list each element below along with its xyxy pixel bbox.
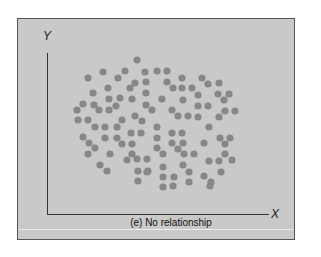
scatter-point <box>148 106 155 113</box>
scatter-point <box>89 89 96 96</box>
scatter-point <box>104 84 111 91</box>
scatter-point <box>220 96 227 103</box>
scatter-point <box>216 134 223 141</box>
scatter-point <box>134 177 141 184</box>
scatter-point <box>168 129 175 136</box>
scatter-point <box>194 102 201 109</box>
scatter-point <box>215 157 222 164</box>
scatter-point <box>185 178 192 185</box>
scatter-point <box>116 94 123 101</box>
scatter-point <box>91 144 98 151</box>
scatter-point <box>198 74 205 81</box>
scatter-point <box>178 129 185 136</box>
scatter-point <box>217 168 224 175</box>
scatter-point <box>142 89 149 96</box>
scatter-point <box>159 163 166 170</box>
scatter-point <box>118 116 125 123</box>
scatter-point <box>74 116 81 123</box>
scatter-point <box>185 168 192 175</box>
y-axis-line <box>47 53 48 215</box>
scatter-point <box>84 74 91 81</box>
scatter-point <box>113 134 120 141</box>
scatter-point <box>225 90 232 97</box>
scatter-point <box>221 150 228 157</box>
scatter-point <box>206 182 213 189</box>
scatter-point <box>134 167 141 174</box>
scatter-point <box>194 113 201 120</box>
scatter-point <box>163 67 170 74</box>
scatter-point <box>153 144 160 151</box>
scatter-point <box>101 123 108 130</box>
scatter-point <box>180 150 187 157</box>
scatter-point <box>204 102 211 109</box>
scatter-point <box>143 155 150 162</box>
scatter-point <box>200 172 207 179</box>
scatter-point <box>190 150 197 157</box>
scatter-point <box>168 106 175 113</box>
scatter-point <box>128 140 135 147</box>
scatter-point <box>204 80 211 87</box>
scatter-point <box>105 95 112 102</box>
figure-panel: Y X (e) No relationship <box>17 18 295 240</box>
scatter-point <box>106 150 113 157</box>
scatter-point <box>95 106 102 113</box>
scatter-point <box>143 168 150 175</box>
scatter-point <box>141 68 148 75</box>
scatter-point <box>142 78 149 85</box>
scatter-point <box>205 123 212 130</box>
scatter-point <box>73 106 80 113</box>
scatter-point <box>128 95 135 102</box>
scatter-point <box>178 74 185 81</box>
scatter-point <box>228 156 235 163</box>
scatter-point <box>169 182 176 189</box>
scatter-point <box>159 150 166 157</box>
scatter-point <box>194 91 201 98</box>
scatter-point <box>118 140 125 147</box>
scatter-point <box>133 155 140 162</box>
scatter-point <box>112 102 119 109</box>
scatter-point <box>215 79 222 86</box>
scatter-point <box>85 139 92 146</box>
scatter-point <box>142 101 149 108</box>
scatter-point <box>159 183 166 190</box>
scatter-point <box>153 134 160 141</box>
scatter-point <box>200 139 207 146</box>
scatter-point <box>174 145 181 152</box>
scatter-point <box>84 116 91 123</box>
figure-caption: (e) No relationship <box>18 217 294 228</box>
scatter-point <box>158 95 165 102</box>
scatter-point <box>168 139 175 146</box>
scatter-point <box>221 107 228 114</box>
scatter-point <box>101 134 108 141</box>
scatter-point <box>231 107 238 114</box>
scatter-point <box>126 84 133 91</box>
scatter-point <box>137 129 144 136</box>
scatter-point <box>163 78 170 85</box>
scatter-point <box>221 140 228 147</box>
scatter-point <box>123 156 130 163</box>
scatter-point <box>215 113 222 120</box>
scatter-point <box>127 129 134 136</box>
scatter-point <box>169 84 176 91</box>
scatter-point <box>114 74 121 81</box>
scatter-point <box>226 134 233 141</box>
scatter-point <box>205 157 212 164</box>
scatter-point <box>84 150 91 157</box>
scatter-point <box>153 67 160 74</box>
scatter-point <box>96 161 103 168</box>
scatter-point <box>184 112 191 119</box>
scatter-point <box>79 100 86 107</box>
scatter-point <box>179 139 186 146</box>
scatter-point <box>153 123 160 130</box>
scatter-point <box>174 112 181 119</box>
scatter-point <box>179 96 186 103</box>
scatter-point <box>214 90 221 97</box>
scatter-point <box>170 173 177 180</box>
scatter-point <box>121 67 128 74</box>
scatter-point <box>159 173 166 180</box>
scatter-plot <box>18 19 296 241</box>
scatter-point <box>188 84 195 91</box>
y-axis-label: Y <box>43 30 51 42</box>
scatter-point <box>178 84 185 91</box>
scatter-point <box>105 106 112 113</box>
